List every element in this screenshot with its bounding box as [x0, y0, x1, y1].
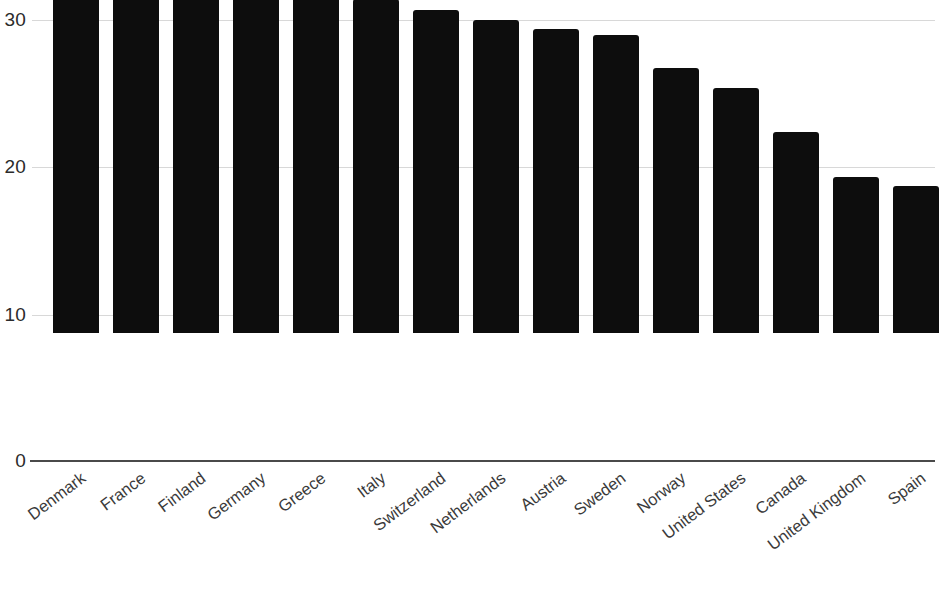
bar: [113, 0, 159, 333]
category-label: Italy: [354, 466, 392, 501]
category-label-text: Greece: [275, 466, 332, 515]
category-label-text: France: [97, 466, 152, 514]
category-label-text: Sweden: [570, 466, 632, 519]
bar: [233, 0, 279, 333]
category-labels-container: DenmarkFranceFinlandGermanyGreeceItalySw…: [0, 466, 935, 598]
category-label: France: [97, 466, 152, 514]
bar: [173, 0, 219, 333]
category-label-text: Italy: [354, 466, 392, 501]
category-label: Spain: [884, 466, 932, 508]
category-label-text: Denmark: [24, 466, 92, 523]
category-label-text: United Kingdom: [764, 466, 872, 554]
category-label: Denmark: [24, 466, 92, 523]
bar: [653, 68, 699, 333]
category-label: Germany: [204, 466, 272, 524]
bar: [833, 177, 879, 333]
category-label-text: Austria: [517, 466, 572, 514]
bar: [533, 29, 579, 333]
bar: [773, 132, 819, 333]
category-label: Greece: [275, 466, 332, 515]
category-label: United Kingdom: [764, 466, 872, 554]
bar: [293, 0, 339, 333]
bar: [593, 35, 639, 333]
category-label-text: Spain: [884, 466, 932, 508]
bar: [53, 0, 99, 333]
bar: [353, 0, 399, 333]
bar: [713, 88, 759, 333]
bar: [413, 10, 459, 333]
category-label: Austria: [517, 466, 572, 514]
axis-baseline-0: [30, 460, 935, 462]
bars-container: [0, 0, 935, 470]
category-label-text: Germany: [204, 466, 272, 524]
bar: [473, 20, 519, 333]
bar: [893, 186, 939, 333]
category-label: Sweden: [570, 466, 632, 519]
